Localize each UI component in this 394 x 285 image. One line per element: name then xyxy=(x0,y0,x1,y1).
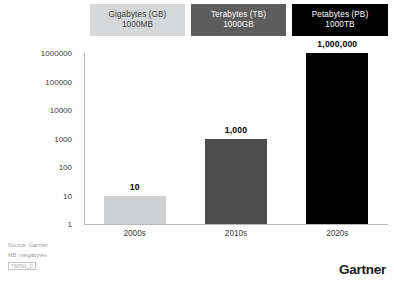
document-id-wrap: 766501_C xyxy=(8,260,208,270)
bar-2000s xyxy=(104,196,166,225)
category-box-petabytes: Petabytes (PB) 1000TB xyxy=(292,4,388,36)
footer: Source: Gartner MB: megabytes 766501_C xyxy=(8,240,208,270)
y-axis-tick-1000000: 1000000 xyxy=(41,49,72,58)
y-axis-line xyxy=(84,53,85,224)
category-box-terabytes: Terabytes (TB) 1000GB xyxy=(191,4,286,36)
bar-value-label-2010s: 1,000 xyxy=(185,125,287,135)
category-box-title: Petabytes (PB) xyxy=(312,10,368,20)
y-axis-tick-100000: 100000 xyxy=(45,77,72,86)
category-box-title: Gigabytes (GB) xyxy=(109,10,167,20)
x-axis-line xyxy=(84,224,388,225)
y-axis-tick-labels: 1101001000100001000001000000 xyxy=(0,53,78,224)
category-header-row: Gigabytes (GB) 1000MB Terabytes (TB) 100… xyxy=(0,4,394,36)
category-box-subtitle: 1000MB xyxy=(122,20,153,30)
y-axis-tick-10000: 10000 xyxy=(50,106,72,115)
bar-2020s xyxy=(306,53,368,224)
y-axis-tick-1: 1 xyxy=(68,220,72,229)
bar-2010s xyxy=(205,139,267,225)
chart-plot-area: 101,0001,000,000 xyxy=(84,53,388,224)
document-id: 766501_C xyxy=(8,262,36,270)
gartner-logo: Gartner xyxy=(339,262,386,277)
bar-value-label-2020s: 1,000,000 xyxy=(286,39,388,49)
category-box-gigabytes: Gigabytes (GB) 1000MB xyxy=(90,4,185,36)
y-axis-tick-10: 10 xyxy=(63,191,72,200)
x-axis-tick-2000s: 2000s xyxy=(84,229,185,238)
x-axis-tick-2010s: 2010s xyxy=(185,229,286,238)
footer-source: Source: Gartner xyxy=(8,240,208,250)
category-box-subtitle: 1000TB xyxy=(325,20,354,30)
footer-note: MB: megabytes xyxy=(8,250,208,260)
category-box-title: Terabytes (TB) xyxy=(211,10,266,20)
y-axis-tick-1000: 1000 xyxy=(54,134,72,143)
x-axis-tick-2020s: 2020s xyxy=(287,229,388,238)
y-axis-tick-100: 100 xyxy=(59,163,72,172)
category-box-subtitle: 1000GB xyxy=(223,20,254,30)
bar-value-label-2000s: 10 xyxy=(84,182,186,192)
